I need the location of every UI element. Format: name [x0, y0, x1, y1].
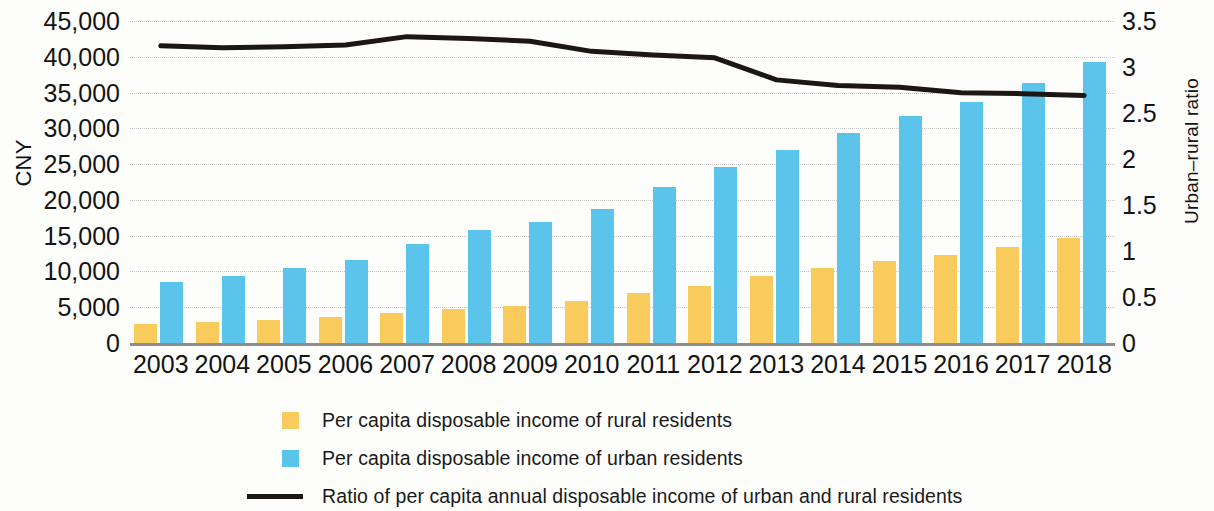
y-axis-left-tick-label: 25,000	[4, 152, 120, 177]
bar-group	[684, 21, 746, 343]
bar-rural	[811, 268, 834, 343]
y-axis-left-tick-label: 45,000	[4, 9, 120, 34]
bar-urban	[283, 268, 306, 343]
legend-swatch-wrap	[282, 412, 322, 429]
y-axis-left-ticks: 05,00010,00015,00020,00025,00030,00035,0…	[0, 0, 120, 506]
bar-urban	[776, 150, 799, 343]
bar-urban	[837, 133, 860, 343]
bar-rural	[996, 247, 1019, 343]
bar-group	[930, 21, 992, 343]
legend-item-label: Per capita disposable income of urban re…	[322, 447, 743, 470]
legend-item-label: Ratio of per capita annual disposable in…	[322, 485, 962, 508]
bar-urban	[222, 276, 245, 343]
bar-urban	[529, 222, 552, 343]
bar-urban	[960, 102, 983, 343]
y-axis-left-tick-label: 10,000	[4, 259, 120, 284]
bar-group	[130, 21, 192, 343]
x-axis-tick-label: 2006	[315, 350, 375, 379]
x-axis-tick-label: 2017	[993, 350, 1053, 379]
legend-color-swatch-icon	[282, 450, 299, 467]
bar-rural	[442, 309, 465, 343]
y-axis-left-tick-label: 15,000	[4, 223, 120, 248]
legend-item: Per capita disposable income of rural re…	[282, 404, 1042, 436]
x-axis-tick-label: 2016	[931, 350, 991, 379]
x-axis-tick-label: 2005	[254, 350, 314, 379]
bar-group	[376, 21, 438, 343]
bar-group	[253, 21, 315, 343]
bar-group	[1053, 21, 1115, 343]
plot-area	[130, 21, 1115, 343]
y-axis-left-tick-label: 35,000	[4, 80, 120, 105]
bar-urban	[1022, 83, 1045, 343]
x-axis-tick-label: 2013	[746, 350, 806, 379]
x-axis-tick-label: 2010	[562, 350, 622, 379]
x-axis-tick-label: 2009	[500, 350, 560, 379]
bar-urban	[653, 187, 676, 343]
x-axis-tick-label: 2018	[1054, 350, 1114, 379]
bar-rural	[380, 313, 403, 343]
bar-group	[992, 21, 1054, 343]
x-axis-tick-label: 2012	[685, 350, 745, 379]
bar-group	[315, 21, 377, 343]
legend-item: Per capita disposable income of urban re…	[282, 442, 1042, 474]
bar-rural	[134, 324, 157, 343]
y-axis-left-tick-label: 40,000	[4, 44, 120, 69]
bar-rural	[627, 293, 650, 343]
y-axis-left-tick-label: 20,000	[4, 187, 120, 212]
bar-rural	[688, 286, 711, 343]
legend-swatch-wrap	[228, 494, 322, 499]
legend-line-swatch-icon	[247, 494, 303, 499]
bar-urban	[406, 244, 429, 343]
y-axis-right-tick-label: 2	[1122, 147, 1192, 172]
bar-rural	[257, 320, 280, 343]
bar-group	[869, 21, 931, 343]
y-axis-right-ticks: 00.511.522.533.5	[1122, 0, 1214, 506]
x-axis-ticks: 2003200420052006200720082009201020112012…	[130, 350, 1115, 390]
x-axis-tick-label: 2003	[131, 350, 191, 379]
bar-rural	[565, 301, 588, 343]
y-axis-right-tick-label: 2.5	[1122, 101, 1192, 126]
bar-urban	[714, 167, 737, 343]
bar-rural	[750, 276, 773, 343]
bar-urban	[591, 209, 614, 343]
x-axis-tick-label: 2011	[623, 350, 683, 379]
bar-rural	[1057, 238, 1080, 343]
y-axis-right-tick-label: 0	[1122, 331, 1192, 356]
bar-urban	[899, 116, 922, 343]
x-axis-tick-label: 2014	[808, 350, 868, 379]
y-axis-left-tick-label: 0	[4, 331, 120, 356]
chart-legend: Per capita disposable income of rural re…	[282, 404, 1042, 511]
bar-urban	[468, 230, 491, 343]
y-axis-right-tick-label: 1.5	[1122, 193, 1192, 218]
y-axis-right-tick-label: 3.5	[1122, 9, 1192, 34]
bar-rural	[196, 322, 219, 343]
bar-group	[499, 21, 561, 343]
bar-group	[623, 21, 685, 343]
x-axis-tick-label: 2008	[439, 350, 499, 379]
x-axis-tick-label: 2007	[377, 350, 437, 379]
bar-rural	[503, 306, 526, 343]
y-axis-right-tick-label: 3	[1122, 55, 1192, 80]
bar-rural	[934, 255, 957, 343]
bar-group	[438, 21, 500, 343]
bar-rural	[873, 261, 896, 343]
bar-urban	[160, 282, 183, 343]
bar-rural	[319, 317, 342, 343]
x-axis-tick-label: 2015	[870, 350, 930, 379]
bar-group	[192, 21, 254, 343]
y-axis-left-tick-label: 5,000	[4, 295, 120, 320]
bar-urban	[345, 260, 368, 343]
legend-item: Ratio of per capita annual disposable in…	[228, 480, 1042, 511]
legend-color-swatch-icon	[282, 412, 299, 429]
bar-group	[746, 21, 808, 343]
y-axis-right-tick-label: 0.5	[1122, 285, 1192, 310]
y-axis-right-tick-label: 1	[1122, 239, 1192, 264]
x-axis-tick-label: 2004	[192, 350, 252, 379]
legend-item-label: Per capita disposable income of rural re…	[322, 409, 732, 432]
legend-swatch-wrap	[282, 450, 322, 467]
bar-group	[807, 21, 869, 343]
y-axis-left-tick-label: 30,000	[4, 116, 120, 141]
x-axis-baseline	[130, 343, 1115, 346]
bar-group	[561, 21, 623, 343]
